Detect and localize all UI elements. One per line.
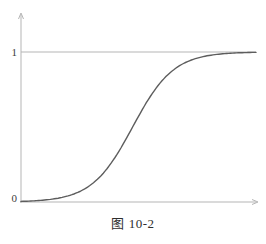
sigmoid-curve <box>21 52 256 201</box>
figure-10-2: 1 0 图 10-2 <box>0 0 266 244</box>
sigmoid-chart: 1 0 <box>0 0 266 212</box>
y-tick-label-1: 1 <box>12 46 18 58</box>
y-tick-label-0: 0 <box>12 192 18 204</box>
figure-caption: 图 10-2 <box>0 213 266 232</box>
